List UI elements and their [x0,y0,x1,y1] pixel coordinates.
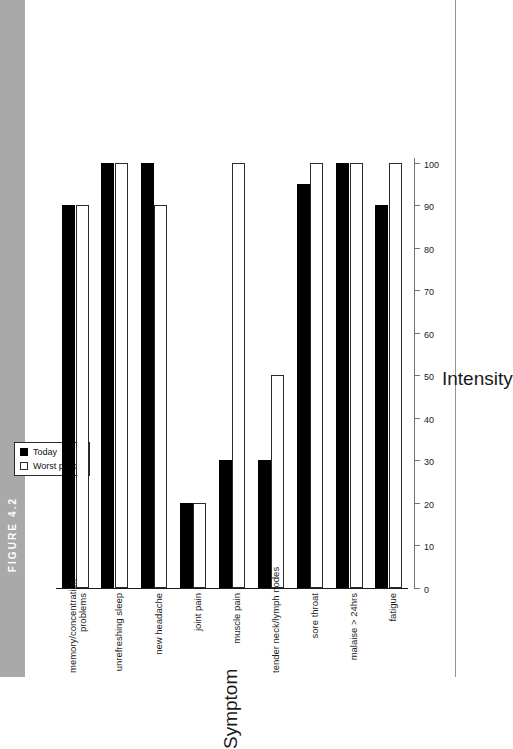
value-axis-tick-label: 100 [424,160,439,170]
bar-group [101,163,128,588]
value-axis-tick-label: 60 [424,330,434,340]
value-axis-tick-label: 90 [424,203,434,213]
legend-swatch-hollow-icon [20,462,28,470]
value-axis-tick [414,461,420,462]
bar-today [336,163,349,588]
value-axis-title: Intensity [442,368,513,390]
value-axis-tick-label: 40 [424,415,434,425]
category-axis-line [56,588,408,589]
legend-label: Today [33,447,57,457]
category-label: unrefreshing sleep [113,593,124,673]
value-axis-tick-label: 20 [424,500,434,510]
bar-group [180,163,207,588]
category-label: malaise > 24hrs [348,593,359,673]
value-axis-line [414,158,415,589]
value-axis-tick [414,546,420,547]
value-axis-tick [414,588,420,589]
bar-group [297,163,324,588]
category-label: memory/concentration problems [68,593,88,673]
value-axis-tick-label: 10 [424,543,434,553]
bar-worst-period [193,503,206,588]
bar-worst-period [350,163,363,588]
bar-today [62,206,75,589]
value-axis-tick [414,418,420,419]
bar-group [375,163,402,588]
value-axis-tick [414,291,420,292]
bar-worst-period [310,163,323,588]
bar-today [297,184,310,588]
bar-group [141,163,168,588]
value-axis-tick-label: 0 [424,585,429,595]
value-axis-tick-label: 30 [424,458,434,468]
category-label: muscle pain [231,593,242,673]
bar-worst-period [115,163,128,588]
bar-worst-period [271,376,284,589]
category-axis-title: Symptom [220,669,242,749]
bar-group [62,163,89,588]
value-axis-tick [414,248,420,249]
bar-worst-period [389,163,402,588]
category-label: tender neck/lymph nodes [270,593,281,673]
value-axis-tick-label: 50 [424,373,434,383]
bar-group [336,163,363,588]
bar-today [180,503,193,588]
bar-group [258,163,285,588]
plot-area: 0102030405060708090100IntensitySymptomme… [56,164,408,589]
bar-worst-period [76,206,89,589]
bar-worst-period [232,163,245,588]
value-axis-tick [414,206,420,207]
value-axis-tick-label: 70 [424,288,434,298]
category-label: fatigue [387,593,398,673]
bar-today [375,206,388,589]
bar-worst-period [154,206,167,589]
value-axis-tick [414,376,420,377]
bar-group [219,163,246,588]
value-axis-tick [414,503,420,504]
category-label: joint pain [192,593,203,673]
bar-today [219,461,232,589]
value-axis-tick-label: 80 [424,245,434,255]
value-axis-tick [414,333,420,334]
value-axis-tick [414,163,420,164]
category-label: new headache [153,593,164,673]
legend-swatch-filled-icon [20,448,28,456]
bar-today [101,163,114,588]
category-label: sore throat [309,593,320,673]
bar-today [141,163,154,588]
